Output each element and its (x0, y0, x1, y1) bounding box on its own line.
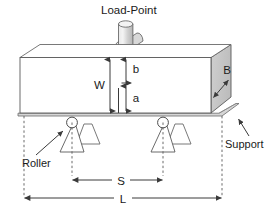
support-left (60, 117, 100, 176)
roller-pointer-arrow (36, 131, 63, 155)
support-annotation: Support (225, 119, 264, 150)
dimension-a-label: a (133, 92, 140, 104)
support-label: Support (225, 138, 264, 150)
support-right (151, 117, 191, 176)
beam-front-face (20, 58, 211, 114)
bending-test-diagram: Load-Point W b a B Support (0, 0, 275, 212)
load-cylinder-top (119, 21, 133, 27)
dimension-b-label: b (133, 63, 139, 75)
dimension-L-label: L (120, 193, 127, 205)
dimension-W-label: W (94, 79, 105, 91)
dimension-S-label: S (117, 175, 125, 187)
roller-annotation: Roller (22, 131, 63, 169)
beam-top-face (20, 45, 231, 58)
dimension-L: L (25, 190, 222, 205)
load-point-label: Load-Point (101, 4, 157, 16)
support-pointer-arrow (239, 119, 250, 136)
roller-label: Roller (22, 157, 51, 169)
dimension-S: S (73, 172, 163, 187)
beam-diagram-canvas: Load-Point W b a B Support (0, 0, 275, 212)
dimension-B-label: B (223, 64, 231, 76)
